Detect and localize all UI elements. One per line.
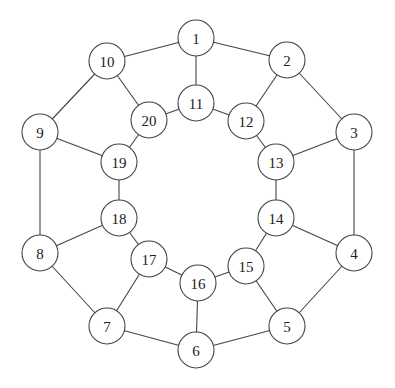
node-17: 17	[131, 241, 167, 277]
node-2: 2	[269, 42, 305, 78]
node-label: 3	[350, 125, 358, 141]
node-4: 4	[336, 235, 372, 271]
node-20: 20	[131, 102, 167, 138]
node-14: 14	[258, 200, 294, 236]
node-label: 7	[103, 319, 111, 335]
node-13: 13	[258, 144, 294, 180]
node-label: 17	[142, 252, 158, 268]
node-label: 4	[350, 246, 358, 262]
graph-diagram: 1234567891011121314151617181920	[0, 0, 395, 388]
node-label: 14	[269, 211, 285, 227]
node-label: 20	[142, 113, 157, 129]
node-3: 3	[336, 114, 372, 150]
node-15: 15	[228, 248, 264, 284]
node-19: 19	[101, 144, 137, 180]
node-label: 8	[36, 246, 44, 262]
node-label: 19	[112, 155, 127, 171]
node-6: 6	[178, 332, 214, 368]
node-9: 9	[22, 114, 58, 150]
node-10: 10	[89, 43, 125, 79]
node-7: 7	[89, 308, 125, 344]
node-label: 16	[191, 276, 207, 292]
node-label: 11	[189, 96, 203, 112]
node-label: 1	[192, 31, 200, 47]
node-5: 5	[269, 308, 305, 344]
node-label: 2	[283, 53, 291, 69]
node-18: 18	[101, 200, 137, 236]
graph-canvas: 1234567891011121314151617181920	[0, 0, 395, 388]
node-11: 11	[178, 85, 214, 121]
node-label: 12	[239, 114, 254, 130]
node-12: 12	[228, 103, 264, 139]
node-label: 6	[192, 343, 200, 359]
node-1: 1	[178, 20, 214, 56]
node-16: 16	[180, 265, 216, 301]
node-label: 13	[269, 155, 284, 171]
node-label: 10	[100, 54, 115, 70]
node-label: 18	[112, 211, 127, 227]
node-label: 9	[36, 125, 44, 141]
node-label: 5	[283, 319, 291, 335]
node-8: 8	[22, 235, 58, 271]
node-label: 15	[239, 259, 254, 275]
